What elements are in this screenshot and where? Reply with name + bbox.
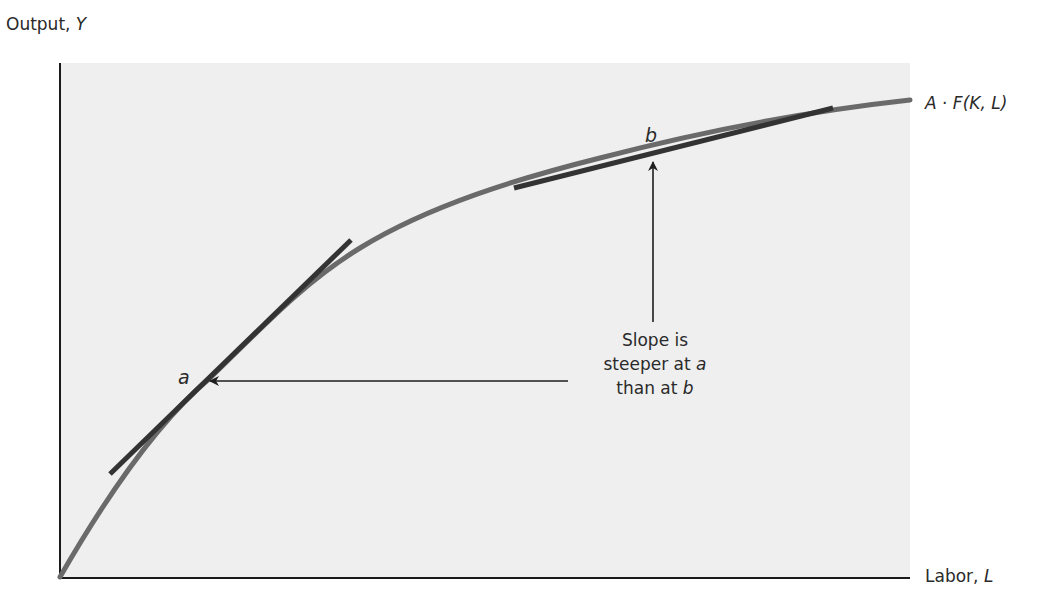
curve-label-f: F [953, 93, 963, 113]
point-a-label: a [178, 366, 190, 388]
curve-label: A · F(K, L) [925, 93, 1007, 113]
slope-annotation: Slope is steeper at a than at b [580, 328, 730, 400]
annotation-var-b: b [683, 378, 694, 398]
x-axis-label-text: Labor, [925, 566, 984, 586]
curve-label-dot: · [937, 93, 953, 113]
curve-label-a: A [925, 93, 937, 113]
annotation-line-2: steeper at a [580, 352, 730, 376]
annotation-line-3-text: than at [616, 378, 683, 398]
annotation-line-1: Slope is [580, 328, 730, 352]
tangent-line-a [110, 240, 351, 474]
y-axis-label: Output, Y [6, 14, 86, 34]
y-axis-variable: Y [76, 14, 86, 34]
point-b-label: b [645, 124, 657, 146]
tangent-line-b [514, 108, 833, 188]
x-axis-variable: L [984, 566, 993, 586]
x-axis-label: Labor, L [925, 566, 993, 586]
annotation-var-a: a [696, 354, 706, 374]
y-axis-label-text: Output, [6, 14, 76, 34]
annotation-line-2-text: steeper at [604, 354, 697, 374]
curve-label-args: (K, L) [963, 93, 1008, 113]
production-curve [60, 100, 910, 577]
production-function-chart [0, 0, 1054, 614]
annotation-line-3: than at b [580, 376, 730, 400]
